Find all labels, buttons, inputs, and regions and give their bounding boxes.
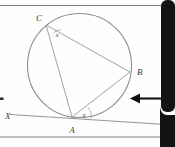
vertex-label-b: B: [137, 67, 143, 77]
vertex-label-c: C: [36, 13, 43, 23]
left-edge-tick-mark: [0, 98, 4, 101]
tangent-label-x: X: [4, 111, 11, 121]
geometry-figure: C B A X Y x x: [0, 0, 175, 147]
page-background: [0, 0, 175, 147]
vertex-label-a: A: [68, 125, 75, 135]
geometry-diagram-screenshot: C B A X Y x x: [0, 0, 175, 147]
right-panel-rounded-block: [161, 0, 175, 112]
